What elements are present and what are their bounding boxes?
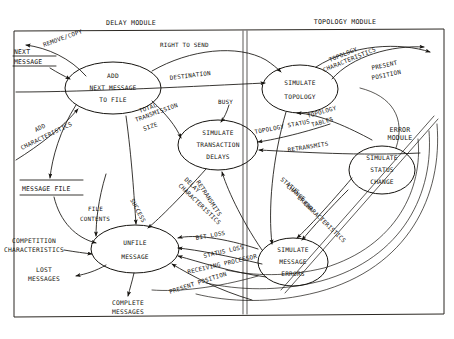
external-complete-line1: COMPLETE (112, 299, 144, 306)
process-label: CHANGE (370, 178, 394, 185)
process-label: SIMULATE (284, 79, 315, 86)
external-competition-line1: COMPETITION (12, 237, 56, 244)
process-label: SIMULATE (277, 246, 308, 253)
process-labels: ADD NEXT MESSAGE TO FILE SIMULATE TRANSA… (89, 72, 397, 277)
module-title-topology: TOPOLOGY MODULE (314, 18, 377, 26)
flow-label-present-position-bottom: PRESENT POSITION (168, 271, 227, 295)
process-label: TOPOLOGY (284, 93, 315, 100)
store-labels: NEXT MESSAGE MESSAGE FILE (14, 48, 71, 193)
process-label: ADD (107, 72, 119, 79)
flow-label-characteristics: CHARACTERISTICS (20, 121, 73, 151)
flow-label-topology-tables-line1: TOPOLOGY (307, 105, 338, 119)
process-label: DELAYS (206, 153, 230, 160)
process-label: TRANSACTION (196, 141, 239, 148)
flow-label-add: ADD (34, 122, 47, 132)
flow-label-destination: DESTINATION (169, 70, 211, 81)
process-label: TO FILE (99, 96, 127, 103)
module-title-delay: DELAY MODULE (106, 19, 156, 27)
flow-label-position: POSITION (371, 69, 402, 81)
process-simulate-topology[interactable] (262, 65, 338, 113)
flow-label-busy: BUSY (218, 99, 233, 105)
process-label: SIMULATE (202, 129, 233, 136)
external-complete-line2: MESSAGES (112, 308, 144, 315)
flow-label-success: SUCCESS (129, 198, 147, 224)
external-lost-line2: MESSAGES (28, 275, 60, 282)
module-frame (14, 29, 444, 317)
flow-label-right-to-send: RIGHT TO SEND (160, 42, 209, 48)
module-title-error-line2: MODULE (387, 134, 412, 142)
diagram-canvas: ADD NEXT MESSAGE TO FILE SIMULATE TRANSA… (0, 0, 454, 339)
flow-label-contents: CONTENTS (80, 216, 110, 222)
dfd-svg: ADD NEXT MESSAGE TO FILE SIMULATE TRANSA… (0, 0, 454, 339)
process-label: UNFILE (123, 239, 147, 246)
process-label: MESSAGE (279, 258, 307, 265)
process-label: STATUS (370, 166, 394, 173)
module-title-error-line1: ERROR (390, 126, 411, 134)
process-label: NEXT MESSAGE (89, 84, 136, 91)
flow-label-file: FILE (88, 206, 103, 212)
store-label-message-file: MESSAGE FILE (22, 185, 71, 193)
external-competition-line2: CHARACTERISTICS (4, 246, 64, 253)
process-label: SIMULATE (366, 154, 397, 161)
process-label: MESSAGE (121, 253, 149, 260)
store-label-next-message-line2: MESSAGE (14, 58, 42, 66)
store-label-next-message-line1: NEXT (14, 48, 30, 56)
flow-label-retransmits-upper: RETRANSMITS (287, 141, 329, 153)
external-lost-line1: LOST (36, 266, 52, 273)
flow-label-size: SIZE (142, 121, 158, 132)
external-labels: COMPETITION CHARACTERISTICS LOST MESSAGE… (4, 237, 144, 315)
process-label: ERRORS (281, 270, 305, 277)
